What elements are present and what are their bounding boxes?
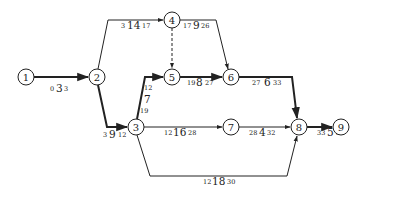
- edge-7-8: 28 4 32: [239, 126, 290, 138]
- network-diagram: 0 3 3 3 14 17 3 9 12 17 9 26: [0, 0, 393, 197]
- svg-text:0: 0: [50, 85, 54, 93]
- svg-text:32: 32: [267, 129, 275, 137]
- svg-text:7: 7: [228, 122, 234, 133]
- svg-text:5: 5: [169, 72, 175, 83]
- svg-text:3: 3: [64, 85, 68, 93]
- svg-text:12: 12: [203, 178, 211, 186]
- svg-text:12: 12: [144, 84, 152, 92]
- node-8: 8: [291, 119, 307, 135]
- svg-text:26: 26: [201, 22, 209, 30]
- svg-text:3: 3: [56, 82, 63, 94]
- node-6: 6: [223, 69, 239, 85]
- edge-3-7: 12 16 28: [144, 126, 222, 138]
- svg-text:3: 3: [103, 131, 107, 139]
- svg-text:6: 6: [264, 76, 271, 88]
- edge-2-4: 3 14 17: [98, 19, 163, 69]
- node-4: 4: [164, 12, 180, 28]
- edge-5-6: 19 8 27: [180, 76, 222, 88]
- svg-text:14: 14: [127, 19, 141, 31]
- svg-text:27: 27: [252, 79, 260, 87]
- svg-text:3: 3: [121, 22, 125, 30]
- node-2: 2: [89, 69, 105, 85]
- edge-3-5: 12 7 19: [137, 77, 163, 119]
- svg-text:28: 28: [188, 129, 196, 137]
- svg-text:7: 7: [144, 93, 151, 105]
- svg-text:9: 9: [109, 128, 116, 140]
- svg-text:28: 28: [249, 129, 257, 137]
- svg-text:12: 12: [164, 129, 172, 137]
- svg-text:17: 17: [183, 22, 191, 30]
- svg-text:6: 6: [228, 72, 234, 83]
- svg-text:33: 33: [273, 79, 281, 87]
- svg-text:8: 8: [196, 76, 203, 88]
- svg-text:12: 12: [118, 131, 126, 139]
- svg-text:2: 2: [94, 72, 100, 83]
- svg-text:16: 16: [173, 126, 187, 138]
- edge-2-3: 3 9 12: [98, 85, 127, 140]
- node-3: 3: [128, 119, 144, 135]
- edge-3-8: 12 18 30: [137, 135, 297, 187]
- node-5: 5: [164, 69, 180, 85]
- svg-text:3: 3: [133, 122, 139, 133]
- node-7: 7: [223, 119, 239, 135]
- svg-text:18: 18: [212, 175, 225, 187]
- edge-1-2: 0 3 3: [34, 77, 88, 94]
- svg-text:33: 33: [317, 129, 325, 137]
- svg-text:4: 4: [259, 126, 266, 138]
- edge-4-6: 17 9 26: [180, 19, 228, 69]
- svg-text:30: 30: [227, 178, 235, 186]
- svg-text:19: 19: [187, 79, 195, 87]
- edge-6-8: 27 6 33: [239, 76, 297, 118]
- node-9: 9: [333, 119, 349, 135]
- svg-text:4: 4: [169, 15, 175, 26]
- svg-text:19: 19: [140, 107, 148, 115]
- svg-text:9: 9: [193, 19, 200, 31]
- svg-text:1: 1: [23, 72, 29, 83]
- svg-text:17: 17: [142, 22, 150, 30]
- svg-text:8: 8: [296, 122, 302, 133]
- svg-text:27: 27: [205, 79, 213, 87]
- node-1: 1: [18, 69, 34, 85]
- svg-text:9: 9: [338, 122, 344, 133]
